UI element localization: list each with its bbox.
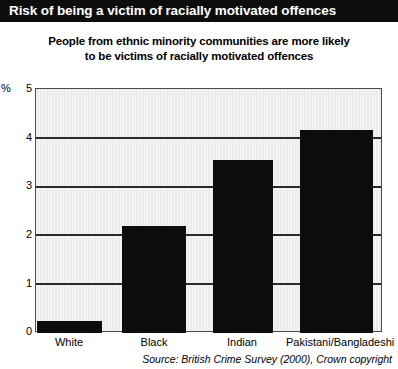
source-note: Source: British Crime Survey (2000), Cro… <box>142 353 392 365</box>
y-axis-tick-1: 1 <box>0 278 32 289</box>
x-axis-label-white: White <box>36 336 102 348</box>
x-axis-label-pakistani-bangladeshi: Pakistani/Bangladeshi <box>286 336 394 348</box>
y-axis-tick-2: 2 <box>0 229 32 240</box>
plot-area <box>35 88 382 332</box>
y-axis-tick-0: 0 <box>0 326 32 337</box>
bar-white[interactable] <box>37 321 102 333</box>
y-axis-tick-5: 5 <box>0 83 32 94</box>
bar-black[interactable] <box>122 226 186 333</box>
x-axis-label-black: Black <box>120 336 188 348</box>
x-axis-label-indian: Indian <box>208 336 276 348</box>
bar-pakistani-bangladeshi[interactable] <box>300 130 373 333</box>
bar-chart: % 5 4 3 2 1 0 White Black Indian Pakista… <box>0 0 398 369</box>
y-axis-tick-4: 4 <box>0 132 32 143</box>
bar-indian[interactable] <box>213 160 273 333</box>
y-axis-tick-3: 3 <box>0 180 32 191</box>
